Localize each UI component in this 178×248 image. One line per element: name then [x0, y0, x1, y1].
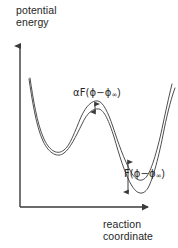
barrier-label-suffix: ) — [117, 87, 120, 98]
barrier-energy-label: αF(ϕ−ϕ∞) — [73, 87, 121, 99]
y-axis-label: potential energy — [16, 5, 57, 28]
well-label-minus: − — [141, 168, 149, 179]
well-label-phi-inf: ϕ — [149, 168, 156, 179]
barrier-label-prefix: αF( — [73, 87, 90, 98]
well-label-suffix: ) — [162, 168, 165, 179]
plot-canvas — [0, 0, 178, 248]
potential-energy-figure: potential energy reaction coordinate αF(… — [0, 0, 178, 248]
well-energy-label: F(ϕ−ϕ∞) — [124, 168, 165, 180]
well-label-prefix: F( — [124, 168, 134, 179]
x-axis-label: reaction coordinate — [103, 219, 153, 242]
barrier-label-minus: − — [96, 87, 104, 98]
well-label-phi: ϕ — [134, 168, 141, 179]
